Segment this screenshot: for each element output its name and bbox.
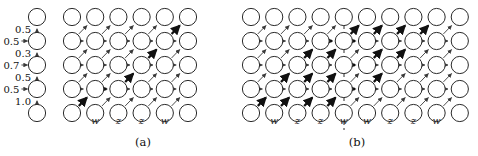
- lattice-node: [335, 56, 352, 73]
- lattice-node: [63, 104, 80, 121]
- column-label: w: [91, 115, 99, 126]
- lattice-edge: [397, 73, 405, 81]
- lattice-node: [133, 56, 150, 73]
- lattice-edge: [125, 25, 133, 33]
- lattice-node: [63, 80, 80, 97]
- lattice-edge: [327, 25, 335, 33]
- lattice-node: [405, 56, 422, 73]
- lattice-edge: [258, 25, 266, 33]
- figure-container: 0.50.30.51.00.50.70.5 wzzw(a) wzzwwzzw(b…: [0, 0, 478, 156]
- lattice-node: [266, 80, 283, 97]
- lattice-node: [87, 32, 104, 49]
- lattice-edge: [443, 25, 451, 33]
- column-label: z: [294, 115, 301, 126]
- lattice-node: [382, 32, 399, 49]
- lattice-edge: [258, 49, 266, 57]
- lattice-edge: [172, 97, 180, 105]
- lattice-edge: [172, 73, 180, 81]
- chain-transition-label: 0.3: [15, 48, 31, 59]
- lattice-edge-bold: [374, 74, 382, 82]
- lattice-node: [405, 80, 422, 97]
- lattice-node: [382, 8, 399, 25]
- lattice-node: [242, 8, 259, 25]
- lattice-edge-bold: [374, 26, 382, 34]
- column-label: w: [433, 115, 441, 126]
- lattice-node: [87, 8, 104, 25]
- lattice-node: [335, 80, 352, 97]
- lattice-node: [405, 8, 422, 25]
- lattice-node: [87, 56, 104, 73]
- lattice-edge: [351, 73, 359, 81]
- lattice-edge: [351, 49, 359, 57]
- chain-transition-label: 1.0: [15, 96, 31, 107]
- lattice-edge: [125, 49, 133, 57]
- lattice-node: [289, 8, 306, 25]
- lattice-node: [242, 104, 259, 121]
- column-label: z: [410, 115, 417, 126]
- lattice-edge-bold: [420, 26, 428, 34]
- lattice-node: [289, 56, 306, 73]
- lattice-node: [179, 32, 196, 49]
- chain-node: [28, 104, 45, 121]
- lattice-edge-bold: [397, 50, 405, 58]
- lattice-edge: [443, 97, 451, 105]
- chain-emission-label: 0.7: [3, 60, 19, 71]
- lattice-edge: [258, 73, 266, 81]
- lattice-edge: [79, 73, 87, 81]
- lattice-edge: [420, 73, 428, 81]
- lattice-node: [179, 8, 196, 25]
- lattice-edge-bold: [327, 74, 335, 82]
- lattice-node: [110, 80, 127, 97]
- lattice-edge: [79, 49, 87, 57]
- lattice-edge: [281, 49, 289, 57]
- lattice-node: [451, 56, 468, 73]
- lattice-node: [156, 8, 173, 25]
- lattice-node: [156, 32, 173, 49]
- lattice-edge-bold: [374, 50, 382, 58]
- chain-emission-label: 0.5: [3, 84, 19, 95]
- lattice-node: [358, 56, 375, 73]
- lattice-edge-bold: [79, 98, 87, 106]
- lattice-edge: [148, 73, 156, 81]
- lattice-edge: [148, 25, 156, 33]
- lattice-edge-bold: [281, 98, 289, 106]
- lattice-node: [335, 32, 352, 49]
- column-label: z: [115, 115, 122, 126]
- lattice-node: [428, 8, 445, 25]
- lattice-node: [242, 56, 259, 73]
- lattice-node: [179, 80, 196, 97]
- panel-caption: (b): [349, 135, 365, 149]
- lattice-node: [63, 32, 80, 49]
- lattice-node: [382, 80, 399, 97]
- lattice-edge-bold: [304, 74, 312, 82]
- lattice-node: [133, 32, 150, 49]
- lattice-edge: [351, 97, 359, 105]
- lattice-node: [133, 8, 150, 25]
- lattice-edge: [102, 73, 110, 81]
- column-label: w: [340, 115, 348, 126]
- lattice-node: [133, 80, 150, 97]
- lattice-edge-bold: [397, 26, 405, 34]
- lattice-node: [358, 80, 375, 97]
- lattice-node: [156, 80, 173, 97]
- lattice-node: [312, 32, 329, 49]
- lattice-edge: [102, 25, 110, 33]
- lattice-edge: [125, 97, 133, 105]
- column-label: z: [317, 115, 324, 126]
- lattice-node: [156, 56, 173, 73]
- lattice-node: [382, 56, 399, 73]
- lattice-node: [451, 32, 468, 49]
- lattice-edge-bold: [304, 98, 312, 106]
- lattice-edge: [148, 97, 156, 105]
- lattice-node: [428, 32, 445, 49]
- lattice-node: [312, 80, 329, 97]
- lattice-edge: [281, 25, 289, 33]
- lattice-node: [428, 80, 445, 97]
- lattice-node: [179, 104, 196, 121]
- lattice-edge-bold: [304, 50, 312, 58]
- column-label: z: [387, 115, 394, 126]
- lattice-node: [110, 32, 127, 49]
- lattice-edge-bold: [327, 98, 335, 106]
- lattice-node: [289, 80, 306, 97]
- probability-chain: 0.50.30.51.00.50.70.5: [3, 8, 45, 121]
